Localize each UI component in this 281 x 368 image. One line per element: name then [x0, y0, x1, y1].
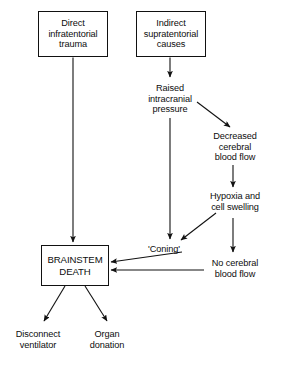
node-coning: 'Coning'	[138, 243, 190, 256]
node-direct-infratentorial-trauma: Direct infratentorial trauma	[38, 11, 108, 57]
edge-hypoxia-to-coning	[181, 213, 216, 240]
node-indirect-supratentorial-causes: Indirect supratentorial causes	[136, 11, 206, 57]
node-disconnect-ventilator: Disconnect ventilator	[3, 328, 73, 352]
node-no-cerebral-blood-flow: No cerebral blood flow	[197, 257, 273, 281]
node-organ-donation: Organ donation	[76, 328, 138, 352]
brainstem-death-flowchart: Direct infratentorial trauma Indirect su…	[0, 0, 281, 368]
edge-brainstem-death-to-disconnect-ventilator	[44, 286, 65, 321]
node-brainstem-death: BRAINSTEM DEATH	[41, 245, 109, 286]
node-raised-intracranial-pressure: Raised intracranial pressure	[135, 82, 205, 116]
node-decreased-cerebral-blood-flow: Decreased cerebral blood flow	[198, 130, 272, 164]
node-hypoxia-and-cell-swelling: Hypoxia and cell swelling	[196, 190, 274, 214]
edge-brainstem-death-to-organ-donation	[85, 286, 107, 321]
